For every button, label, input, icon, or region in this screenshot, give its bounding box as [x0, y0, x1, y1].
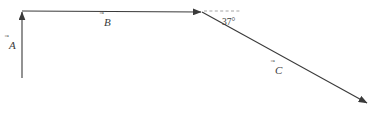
- vector-a-label: A: [8, 39, 16, 51]
- vector-c-label: C: [275, 64, 283, 76]
- vector-b-line: [22, 11, 201, 12]
- vector-diagram: ⃗ A ⃗ B ⃗ C 37°: [0, 0, 380, 116]
- angle-label: 37°: [222, 17, 236, 27]
- vector-b-label: B: [104, 16, 111, 28]
- vector-c-accent: ⃗: [270, 60, 275, 62]
- vector-diagram-canvas: ⃗ A ⃗ B ⃗ C 37°: [0, 0, 380, 116]
- vector-a-accent: ⃗: [4, 35, 9, 37]
